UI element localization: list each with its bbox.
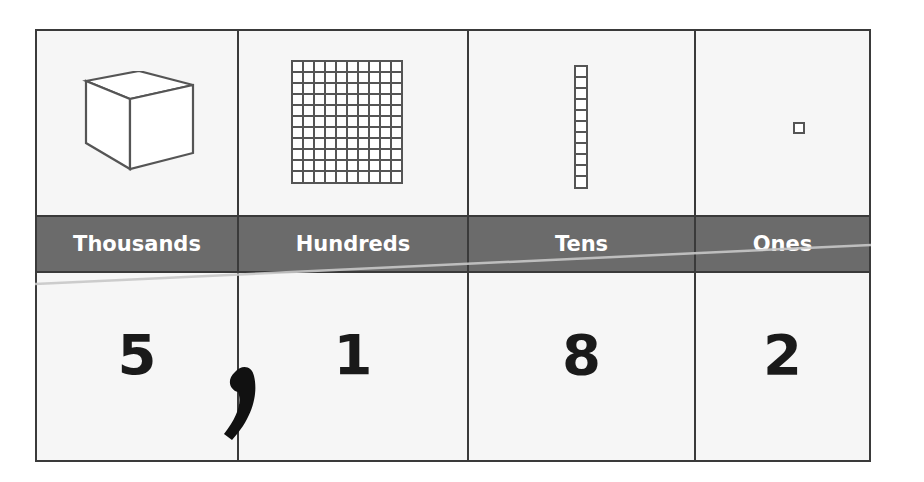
ones-block-cell	[696, 31, 869, 215]
label-thousands: Thousands	[37, 217, 239, 271]
unit-cube-icon	[793, 122, 805, 134]
digits-row: 5 1 8 2	[37, 273, 869, 460]
digit-thousands-cell: 5	[37, 273, 239, 460]
digit-thousands: 5	[118, 322, 157, 387]
digit-ones-cell: 2	[696, 273, 869, 460]
blocks-row	[37, 31, 869, 215]
digit-tens: 8	[562, 322, 601, 387]
cube-icon	[82, 71, 198, 171]
thousands-separator-comma	[218, 358, 262, 446]
tens-block-cell	[469, 31, 696, 215]
place-labels-band: Thousands Hundreds Tens Ones	[37, 215, 869, 273]
label-tens: Tens	[469, 217, 696, 271]
tens-rod-icon	[574, 65, 588, 189]
thousands-block-cell	[37, 31, 239, 215]
digit-tens-cell: 8	[469, 273, 696, 460]
hundreds-flat-icon	[291, 60, 403, 184]
hundreds-block-cell	[239, 31, 469, 215]
digit-hundreds: 1	[334, 322, 373, 387]
place-value-chart: Thousands Hundreds Tens Ones 5 1 8 2	[35, 29, 871, 462]
label-ones: Ones	[696, 217, 869, 271]
digit-hundreds-cell: 1	[239, 273, 469, 460]
digit-ones: 2	[763, 322, 802, 387]
label-hundreds: Hundreds	[239, 217, 469, 271]
